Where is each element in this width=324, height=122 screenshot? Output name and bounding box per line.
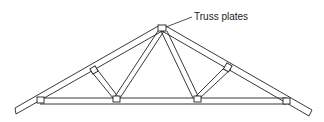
truss-plate-left-bottom [113, 96, 120, 102]
truss-plate-right-bottom [194, 96, 201, 102]
truss-plate-left-web [90, 66, 98, 74]
callout-leader-line [166, 17, 192, 27]
truss-drawing [0, 0, 324, 122]
truss-plate-left-heel [37, 97, 44, 103]
bottom-chord [40, 98, 287, 104]
right-short-web [194, 66, 231, 98]
truss-plate-peak [158, 25, 166, 31]
truss-plates-label: Truss plates [194, 11, 248, 22]
truss-plate-right-heel [283, 98, 290, 104]
truss-diagram: Truss plates [0, 0, 324, 122]
left-long-web [114, 31, 164, 98]
